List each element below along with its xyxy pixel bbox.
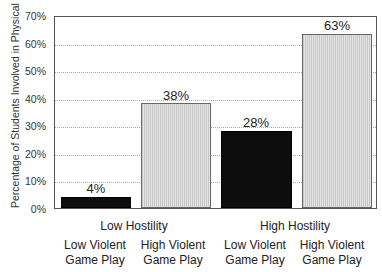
y-tick-50: 50% <box>6 65 46 77</box>
category-label-1: Low ViolentGame Play <box>50 238 140 268</box>
category-line: High Violent <box>141 238 206 252</box>
value-label-63: 63% <box>302 18 372 33</box>
value-label-28: 28% <box>221 115 291 130</box>
category-line: Game Play <box>143 253 202 267</box>
y-tick-20: 20% <box>6 148 46 160</box>
y-tick-30: 30% <box>6 120 46 132</box>
value-label-38: 38% <box>141 88 211 103</box>
y-tick-0: 0% <box>6 203 46 215</box>
category-line: Game Play <box>65 253 124 267</box>
category-line: Low Violent <box>64 238 126 252</box>
y-tick-70: 70% <box>6 10 46 22</box>
category-line: Game Play <box>302 253 361 267</box>
category-label-2: High ViolentGame Play <box>128 238 218 268</box>
category-line: Game Play <box>225 253 284 267</box>
group-label-high-hostility: High Hostility <box>245 219 345 233</box>
bar-high-hostility-high-violent <box>302 34 372 208</box>
bar-low-hostility-low-violent <box>61 197 131 208</box>
group-label-low-hostility: Low Hostility <box>84 219 184 233</box>
bar-low-hostility-high-violent <box>141 103 211 208</box>
value-label-4: 4% <box>61 181 131 196</box>
category-line: High Violent <box>300 238 365 252</box>
category-line: Low Violent <box>224 238 286 252</box>
bar-high-hostility-low-violent <box>221 131 292 208</box>
category-label-4: High ViolentGame Play <box>287 238 377 268</box>
y-tick-10: 10% <box>6 175 46 187</box>
y-tick-40: 40% <box>6 93 46 105</box>
y-tick-60: 60% <box>6 38 46 50</box>
plot-area: 4% 38% 28% 63% <box>54 16 377 209</box>
